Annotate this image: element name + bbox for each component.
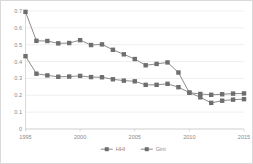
data-point-hhi bbox=[133, 57, 137, 61]
data-point-gini bbox=[45, 73, 49, 77]
data-point-gini bbox=[89, 75, 93, 79]
x-axis-tick-labels: 19952000200520102015 bbox=[19, 129, 250, 140]
y-tick-label: 0.5 bbox=[14, 42, 22, 48]
x-tick-label: 2005 bbox=[129, 134, 141, 140]
data-point-hhi bbox=[67, 41, 71, 45]
data-point-hhi bbox=[154, 62, 158, 66]
data-point-hhi bbox=[34, 39, 38, 43]
data-point-hhi bbox=[165, 60, 169, 64]
data-point-gini bbox=[122, 78, 126, 82]
data-point-hhi bbox=[143, 63, 147, 67]
data-point-hhi bbox=[78, 38, 82, 42]
data-point-hhi bbox=[176, 70, 180, 74]
y-tick-label: 0.6 bbox=[14, 25, 22, 31]
data-point-hhi bbox=[23, 10, 27, 14]
data-point-gini bbox=[34, 72, 38, 76]
x-tick-label: 2000 bbox=[74, 134, 86, 140]
data-point-hhi bbox=[122, 52, 126, 56]
data-point-gini bbox=[187, 90, 191, 94]
legend-marker-gini bbox=[145, 147, 149, 151]
data-point-gini bbox=[242, 97, 246, 101]
data-point-gini bbox=[67, 74, 71, 78]
y-tick-label: 0.7 bbox=[14, 8, 22, 14]
x-tick-label: 2015 bbox=[238, 134, 250, 140]
data-point-gini bbox=[198, 95, 202, 99]
data-point-gini bbox=[133, 79, 137, 83]
data-point-hhi bbox=[209, 93, 213, 97]
axes bbox=[26, 11, 245, 129]
data-point-hhi bbox=[111, 48, 115, 52]
legend-label-hhi: HHI bbox=[116, 146, 126, 152]
data-point-gini bbox=[111, 77, 115, 81]
y-tick-label: 0.2 bbox=[14, 92, 22, 98]
data-point-hhi bbox=[56, 41, 60, 45]
data-point-gini bbox=[176, 85, 180, 89]
data-point-gini bbox=[165, 82, 169, 86]
data-point-hhi bbox=[45, 39, 49, 43]
data-point-hhi bbox=[220, 92, 224, 96]
data-point-gini bbox=[56, 75, 60, 79]
data-point-hhi bbox=[242, 91, 246, 95]
data-point-gini bbox=[231, 97, 235, 101]
legend-label-gini: Gini bbox=[156, 146, 166, 152]
chart-container: 00.10.20.30.40.50.60.7 19952000200520102… bbox=[0, 0, 253, 164]
legend-marker-hhi bbox=[105, 147, 109, 151]
data-point-gini bbox=[143, 83, 147, 87]
chart-legend: HHIGini bbox=[101, 146, 166, 152]
data-point-gini bbox=[78, 74, 82, 78]
data-point-gini bbox=[100, 75, 104, 79]
line-chart: 00.10.20.30.40.50.60.7 19952000200520102… bbox=[1, 1, 253, 164]
data-point-hhi bbox=[100, 42, 104, 46]
y-tick-label: 0.3 bbox=[14, 75, 22, 81]
y-tick-label: 0.1 bbox=[14, 109, 22, 115]
data-point-gini bbox=[220, 98, 224, 102]
data-point-gini bbox=[209, 101, 213, 105]
x-tick-label: 2010 bbox=[183, 134, 195, 140]
data-point-gini bbox=[23, 54, 27, 58]
y-axis-tick-labels: 00.10.20.30.40.50.60.7 bbox=[14, 8, 22, 132]
y-tick-label: 0.4 bbox=[14, 59, 22, 65]
data-point-gini bbox=[154, 83, 158, 87]
y-tick-label: 0 bbox=[19, 126, 22, 132]
data-point-hhi bbox=[231, 91, 235, 95]
gridlines bbox=[26, 11, 245, 129]
data-series bbox=[23, 10, 246, 105]
data-point-hhi bbox=[89, 43, 93, 47]
x-tick-label: 1995 bbox=[19, 134, 31, 140]
